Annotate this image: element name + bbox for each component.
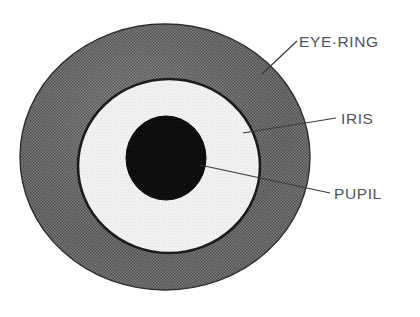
label-iris: IRIS: [341, 111, 374, 127]
leader-line-eye-ring: [262, 41, 297, 74]
label-eye-ring: EYE·RING: [299, 34, 379, 50]
label-pupil: PUPIL: [334, 186, 382, 202]
pupil-shape: [126, 116, 206, 200]
figure-canvas: EYE·RING IRIS PUPIL: [0, 0, 420, 317]
